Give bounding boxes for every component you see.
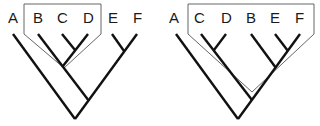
- tree-left-labels: A B C D E F: [8, 9, 142, 26]
- branch-a: [176, 34, 238, 119]
- taxon-label-f: F: [133, 9, 142, 26]
- tree-right: A C D B E F: [169, 4, 314, 119]
- branch-root-f: [238, 34, 300, 119]
- branch-a: [13, 34, 75, 119]
- taxon-label-e: E: [108, 9, 118, 26]
- tree-left: A B C D E F: [8, 4, 142, 119]
- tree-right-labels: A C D B E F: [169, 9, 304, 26]
- branch-b: [251, 34, 276, 68]
- taxon-label-a: A: [8, 9, 18, 26]
- taxon-label-d: D: [221, 9, 232, 26]
- branch-c: [201, 34, 252, 100]
- branch-c: [62, 34, 75, 50]
- taxon-label-a: A: [169, 9, 179, 26]
- taxon-label-e: E: [270, 9, 280, 26]
- taxon-label-c: C: [194, 9, 205, 26]
- taxon-label-b: B: [246, 9, 256, 26]
- taxon-label-d: D: [83, 9, 94, 26]
- branch-d: [214, 34, 226, 50]
- branch-e: [275, 34, 288, 51]
- taxon-label-f: F: [295, 9, 304, 26]
- branch-e: [112, 34, 124, 51]
- taxon-label-c: C: [57, 9, 68, 26]
- taxon-label-b: B: [33, 9, 43, 26]
- tree-right-branches: [176, 34, 300, 119]
- cladogram-figure: A B C D E F A C D B: [0, 0, 320, 126]
- tree-left-branches: [13, 34, 137, 119]
- branch-root-f: [75, 34, 137, 119]
